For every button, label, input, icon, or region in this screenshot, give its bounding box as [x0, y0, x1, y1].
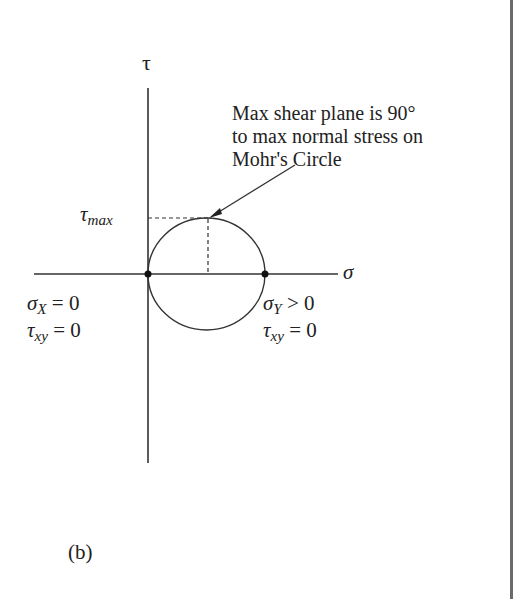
sigma-x-label: σX = 0 — [27, 291, 79, 318]
tau-xy-right-label: τxy = 0 — [263, 318, 317, 345]
tau-xy-left-subscript: xy — [35, 328, 48, 344]
sigma-x-value: = 0 — [47, 291, 80, 315]
tau-max-symbol: τ — [80, 202, 88, 226]
tau-xy-left-label: τxy = 0 — [27, 318, 81, 345]
panel-label: (b) — [68, 540, 93, 565]
arrowhead-icon — [209, 208, 222, 218]
tau-max-subscript: max — [88, 212, 113, 228]
tau-xy-right-symbol: τ — [263, 318, 271, 342]
tau-axis-label: τ — [142, 50, 151, 76]
annotation-line-2: to max normal stress on — [232, 125, 423, 148]
annotation-line-1: Max shear plane is 90° — [232, 102, 423, 125]
sigma-y-symbol: σ — [263, 291, 273, 315]
point-sigma-y — [262, 271, 269, 278]
tau-xy-right-subscript: xy — [271, 328, 284, 344]
point-sigma-x — [145, 271, 152, 278]
tau-xy-right-value: = 0 — [284, 318, 317, 342]
sigma-y-value: > 0 — [282, 291, 315, 315]
tau-xy-left-value: = 0 — [48, 318, 81, 342]
annotation-text: Max shear plane is 90° to max normal str… — [232, 102, 423, 171]
annotation-leader-line — [214, 165, 295, 215]
sigma-x-symbol: σ — [27, 291, 37, 315]
sigma-axis-label: σ — [343, 260, 353, 285]
tau-max-label: τmax — [80, 202, 113, 229]
annotation-line-3: Mohr's Circle — [232, 148, 423, 171]
tau-xy-left-symbol: τ — [27, 318, 35, 342]
sigma-y-subscript: Y — [273, 301, 281, 317]
sigma-y-label: σY > 0 — [263, 291, 315, 318]
right-border-divider — [510, 0, 513, 599]
sigma-x-subscript: X — [37, 301, 46, 317]
